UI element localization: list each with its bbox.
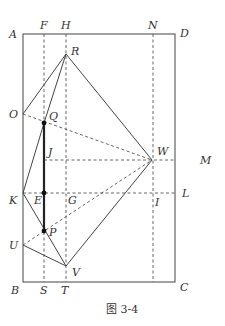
label-b: B [10,284,19,297]
label-q: Q [49,110,58,123]
point-p-dot [42,229,47,234]
geometry-figure: A F H N D R O Q J W M K E G I L P U V B … [0,0,225,326]
figure-caption: 图 3-4 [106,303,138,316]
rectangle-abcd [23,34,175,282]
point-e-dot [42,191,47,196]
label-e: E [33,194,42,207]
label-u: U [9,239,19,252]
label-a: A [8,28,17,41]
label-t: T [61,284,70,297]
segment-wv [66,160,152,266]
label-j: J [46,146,53,159]
segment-qk [23,123,44,193]
label-s: S [40,284,48,297]
label-p: P [48,226,57,239]
label-l: L [181,187,189,200]
figure-canvas: A F H N D R O Q J W M K E G I L P U V B … [0,0,225,326]
segment-rw [66,54,152,160]
label-n: N [147,19,158,32]
label-f: F [39,19,48,32]
label-o: O [9,108,18,121]
label-g: G [68,194,77,207]
label-k: K [8,194,18,207]
label-i: I [154,196,160,209]
label-m: M [199,154,212,167]
label-h: H [60,19,71,32]
label-c: C [180,281,189,294]
label-r: R [70,45,79,58]
dashed-line-ow [23,114,152,160]
label-d: D [179,27,189,40]
label-v: V [72,266,81,279]
label-w: W [157,145,170,158]
segment-ro [23,54,66,114]
point-q-dot [42,121,47,126]
